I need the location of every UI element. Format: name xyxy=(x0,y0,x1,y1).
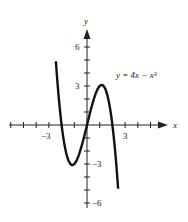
y-tick-label: 3 xyxy=(75,81,80,91)
y-tick-label: −3 xyxy=(92,159,102,169)
x-tick-label: −3 xyxy=(41,131,51,141)
x-tick-label: 3 xyxy=(123,131,128,141)
y-tick-label: −6 xyxy=(92,198,102,208)
x-axis-arrow-icon xyxy=(158,122,168,129)
x-axis-label: x xyxy=(172,120,177,130)
equation-label: y = 4x − x³ xyxy=(115,70,157,80)
y-tick-label: 6 xyxy=(75,42,80,52)
y-axis-label: y xyxy=(83,16,88,26)
y-axis-arrow-icon xyxy=(84,29,91,39)
cubic-function-plot: −3363−3−6 x y y = 4x − x³ xyxy=(0,0,188,222)
